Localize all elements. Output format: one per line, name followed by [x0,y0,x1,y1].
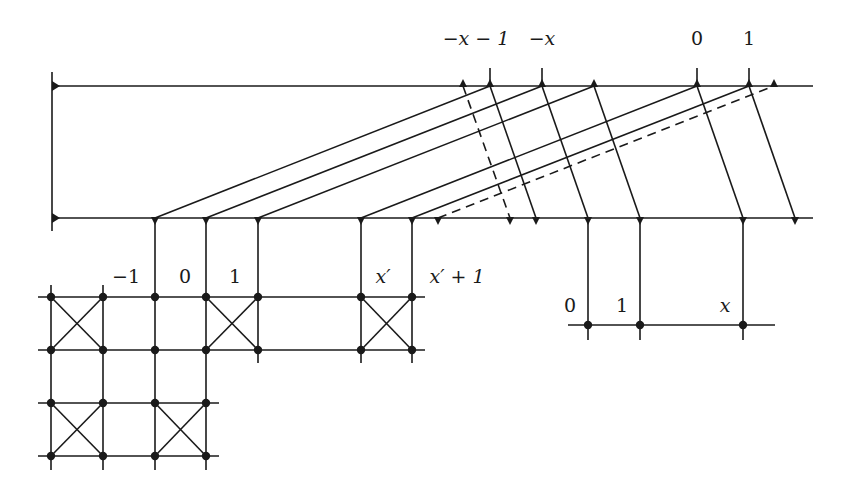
right-node [636,321,644,329]
bottom-node [202,217,210,225]
label-grid-1: 1 [229,265,241,287]
grid-node [47,346,55,354]
bottom-node [636,217,644,225]
label-top-neg-x: −x [529,27,556,49]
grid-node [47,452,55,460]
bottom-node [151,217,159,225]
right-node [584,321,592,329]
braid-diagram: −x − 1 −x 0 1 −1 0 1 x′ x′ + 1 0 1 x [0,0,847,499]
label-right-0: 0 [564,294,576,316]
dashed-rising-strand [438,86,774,218]
label-top-neg-x-minus-1: −x − 1 [443,27,510,49]
top-node [459,79,467,87]
bottom-node [357,217,365,225]
grid-node [202,346,210,354]
label-top-1: 1 [743,27,755,49]
grid-node [202,293,210,301]
label-right-x: x [720,294,731,316]
label-grid-x-prime-plus-1: x′ + 1 [429,265,484,287]
grid-lattice [38,218,425,470]
label-grid-neg-1: −1 [112,265,140,287]
bottom-node [791,217,799,225]
grid-node [408,293,416,301]
label-grid-0: 0 [179,265,191,287]
grid-node [47,399,55,407]
grid-node [357,346,365,354]
top-node [486,79,494,87]
grid-node [47,293,55,301]
grid-node [151,346,159,354]
falling-strand [594,86,640,218]
grid-node [408,346,416,354]
bottom-node [408,217,416,225]
top-node [770,79,778,87]
top-node [538,79,546,87]
top-node [693,79,701,87]
rising-strand [258,86,594,218]
bottom-node [254,217,262,225]
label-right-1: 1 [616,294,628,316]
grid-node [99,346,107,354]
grid-node [254,293,262,301]
grid-node [202,452,210,460]
grid-node [357,293,365,301]
top-node [590,79,598,87]
grid-node [99,293,107,301]
bottom-node [532,217,540,225]
grid-node [99,399,107,407]
label-top-0: 0 [691,27,703,49]
right-node [739,321,747,329]
left-marker-bottom [52,213,60,223]
grid-node [202,399,210,407]
rising-strand [206,86,542,218]
bottom-node [584,217,592,225]
grid-node [254,346,262,354]
grid-node [99,452,107,460]
top-node [745,79,753,87]
strands [155,86,795,218]
falling-strand [749,86,795,218]
label-grid-x-prime: x′ [375,265,391,287]
left-marker-top [52,81,60,91]
grid-node [151,452,159,460]
falling-strand [697,86,743,218]
grid-node [151,293,159,301]
grid-node [151,399,159,407]
rising-strand [155,86,490,218]
labels: −x − 1 −x 0 1 −1 0 1 x′ x′ + 1 0 1 x [112,27,755,316]
bottom-node [434,217,442,225]
bottom-node [506,217,514,225]
bottom-node [739,217,747,225]
